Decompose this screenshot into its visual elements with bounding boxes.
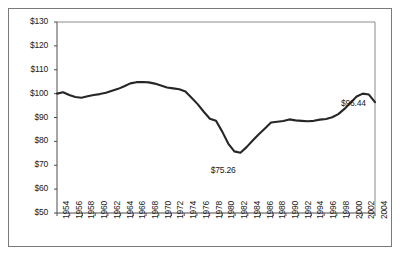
- data-series-line: [57, 82, 375, 153]
- data-point-annotation: $75.26: [211, 165, 236, 175]
- x-axis-tick-label: 1970: [163, 201, 173, 219]
- x-axis-tick-label: 2002: [366, 201, 376, 219]
- x-axis-tick-label: 2000: [354, 201, 364, 219]
- x-axis-tick-label: 1986: [265, 201, 275, 219]
- x-axis-tick-label: 1988: [277, 201, 287, 219]
- y-axis-tick-label: $50: [8, 207, 48, 217]
- data-point-annotation: $96.44: [341, 98, 366, 108]
- x-axis-tick-label: 1980: [226, 201, 236, 219]
- y-axis-tick-label: $120: [8, 40, 48, 50]
- x-axis-tick-label: 1996: [328, 201, 338, 219]
- line-chart: [0, 0, 400, 264]
- y-axis-tick-label: $100: [8, 88, 48, 98]
- x-axis-tick-label: 1990: [290, 201, 300, 219]
- x-axis-tick-label: 1962: [112, 201, 122, 219]
- x-axis-tick-label: 1984: [252, 201, 262, 219]
- y-axis-tick-label: $90: [8, 112, 48, 122]
- x-axis-tick-label: 1964: [125, 201, 135, 219]
- x-axis-tick-label: 1956: [74, 201, 84, 219]
- x-axis-tick-label: 2004: [379, 201, 389, 219]
- x-axis-tick-label: 1960: [99, 201, 109, 219]
- y-axis-tick-label: $130: [8, 16, 48, 26]
- x-axis-tick-label: 1958: [86, 201, 96, 219]
- x-axis-tick-label: 1998: [341, 201, 351, 219]
- x-axis-tick-label: 1992: [303, 201, 313, 219]
- y-axis-tick-label: $110: [8, 64, 48, 74]
- x-axis-tick-label: 1976: [201, 201, 211, 219]
- x-axis-tick-label: 1994: [315, 201, 325, 219]
- plot-frame: [57, 22, 375, 213]
- x-axis-tick-label: 1974: [188, 201, 198, 219]
- x-axis-tick-label: 1982: [239, 201, 249, 219]
- x-axis-tick-label: 1966: [137, 201, 147, 219]
- x-axis-tick-label: 1978: [214, 201, 224, 219]
- x-axis-tick-label: 1968: [150, 201, 160, 219]
- y-axis-tick-label: $70: [8, 159, 48, 169]
- y-axis-tick-label: $60: [8, 183, 48, 193]
- x-axis-tick-label: 1954: [61, 201, 71, 219]
- x-axis-tick-label: 1972: [175, 201, 185, 219]
- y-axis-tick-label: $80: [8, 135, 48, 145]
